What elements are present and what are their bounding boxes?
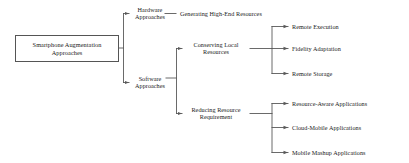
- root-node-label: Smartphone Augmentation Approaches: [16, 36, 118, 61]
- node-conserving-local-resources[interactable]: Conserving Local Resources: [183, 41, 249, 56]
- node-remote-execution[interactable]: Remote Execution: [292, 23, 339, 30]
- connector-lines: [0, 0, 409, 163]
- arrowhead-hardware: [125, 12, 129, 15]
- node-cloud-mobile-applications[interactable]: Cloud-Mobile Applications: [292, 124, 361, 131]
- root-node-box[interactable]: Smartphone Augmentation Approaches: [15, 35, 119, 62]
- node-reducing-resource-requirement[interactable]: Reducing Resource Requirement: [183, 106, 249, 121]
- node-mobile-mashup-applications[interactable]: Mobile Mashup Applications: [292, 149, 365, 156]
- node-remote-storage[interactable]: Remote Storage: [292, 70, 332, 77]
- node-resource-aware-applications[interactable]: Resource-Aware Applications: [292, 100, 367, 107]
- arrowhead-reducing: [178, 112, 182, 115]
- node-software-approaches[interactable]: Software Approaches: [130, 75, 170, 90]
- arrowhead-conserving: [178, 47, 182, 50]
- arrowhead-software: [125, 81, 129, 84]
- arrowhead-cloud-mobile: [284, 126, 289, 130]
- arrowhead-fidelity-adaptation: [284, 47, 289, 51]
- taxonomy-diagram: Smartphone Augmentation Approaches Hardw…: [0, 0, 409, 163]
- arrowhead-resource-aware: [284, 102, 289, 106]
- node-generating-high-end-resources[interactable]: Generating High-End Resources: [180, 10, 262, 17]
- arrowhead-remote-storage: [284, 72, 289, 76]
- arrowhead-mobile-mashup: [284, 151, 289, 155]
- arrowhead-remote-execution: [284, 25, 289, 29]
- node-hardware-approaches[interactable]: Hardware Approaches: [130, 6, 170, 21]
- node-fidelity-adaptation[interactable]: Fidelity Adaptation: [292, 45, 341, 52]
